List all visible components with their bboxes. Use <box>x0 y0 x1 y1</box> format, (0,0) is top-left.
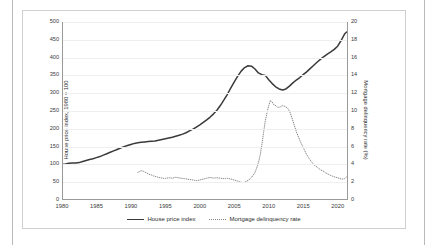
y-tick-label-right: 12 <box>351 90 357 96</box>
gridline <box>62 147 348 148</box>
x-tick-label: 1990 <box>124 204 137 210</box>
gridline <box>62 182 348 183</box>
y-tick-label-right: 0 <box>351 197 354 203</box>
legend-item-mortgage-delinquency-rate[interactable]: Mortgage delinquency rate <box>209 216 300 222</box>
y-tick-label-right: 16 <box>351 55 357 61</box>
legend-label: House price index <box>147 216 195 222</box>
y-tick-label-right: 14 <box>351 72 357 78</box>
y-tick-label-right: 10 <box>351 108 357 114</box>
y-tick-label-left: 50 <box>53 179 59 185</box>
x-tick-label: 2015 <box>297 204 310 210</box>
x-tick-label: 2010 <box>262 204 275 210</box>
gridline <box>62 58 348 59</box>
gridline <box>62 129 348 130</box>
y-tick-label-left: 150 <box>50 144 59 150</box>
chart-container: House price index, 1980 = 100 Mortgage d… <box>22 10 406 229</box>
y-tick-label-left: 300 <box>50 90 59 96</box>
chart-legend: House price index Mortgage delinquency r… <box>23 216 405 222</box>
gridline <box>62 164 348 165</box>
page-margin-rule-left <box>12 0 13 245</box>
y-tick-label-left: 350 <box>50 72 59 78</box>
y-tick-label-right: 20 <box>351 19 357 25</box>
x-tick-label: 1985 <box>90 204 103 210</box>
page-canvas: House price index, 1980 = 100 Mortgage d… <box>0 0 436 245</box>
y-tick-label-right: 4 <box>351 161 354 167</box>
legend-item-house-price-index[interactable]: House price index <box>127 216 195 222</box>
y-tick-label-left: 200 <box>50 126 59 132</box>
y-tick-label-left: 250 <box>50 108 59 114</box>
y-tick-label-left: 100 <box>50 161 59 167</box>
y-tick-label-right: 18 <box>351 37 357 43</box>
legend-label: Mortgage delinquency rate <box>229 216 300 222</box>
x-tick-label: 2005 <box>228 204 241 210</box>
plot-area: 050100150200250300350400450500 024681012… <box>62 22 348 200</box>
gridline <box>62 75 348 76</box>
axis-line-left <box>62 22 63 200</box>
y-tick-label-right: 6 <box>351 144 354 150</box>
y-tick-label-right: 2 <box>351 179 354 185</box>
series-line <box>62 32 347 164</box>
gridline <box>62 93 348 94</box>
y-axis-title-right: Mortgage delinquency rate (%) <box>361 80 367 159</box>
page-margin-rule-right <box>424 0 425 245</box>
gridline <box>62 40 348 41</box>
axis-line-bottom <box>62 199 348 200</box>
y-tick-label-left: 400 <box>50 55 59 61</box>
gridline <box>62 111 348 112</box>
y-tick-label-left: 450 <box>50 37 59 43</box>
x-tick-label: 2000 <box>193 204 206 210</box>
y-tick-label-right: 8 <box>351 126 354 132</box>
series-line <box>138 100 347 182</box>
gridline <box>62 22 348 23</box>
legend-swatch-solid-icon <box>127 219 144 220</box>
axis-line-right <box>347 22 348 200</box>
legend-swatch-dotted-icon <box>209 219 226 220</box>
x-tick-label: 1995 <box>159 204 172 210</box>
y-tick-label-left: 500 <box>50 19 59 25</box>
x-tick-label: 1980 <box>56 204 69 210</box>
y-tick-label-left: 0 <box>56 197 59 203</box>
x-tick-label: 2020 <box>331 204 344 210</box>
